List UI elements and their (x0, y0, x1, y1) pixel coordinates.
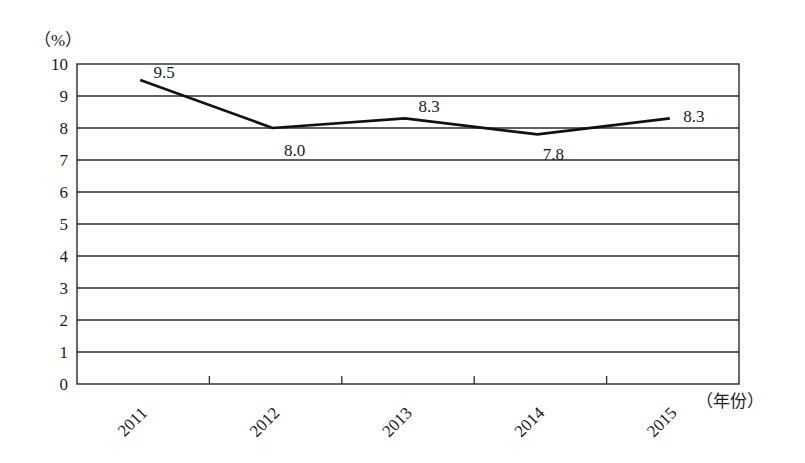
y-tick-label: 4 (60, 247, 69, 266)
y-tick-label: 9 (60, 87, 69, 106)
data-label: 8.0 (284, 141, 305, 160)
gridlines (77, 96, 739, 352)
y-tick-label: 10 (51, 55, 68, 74)
y-tick-label: 3 (60, 279, 69, 298)
y-tick-label: 0 (60, 375, 69, 394)
y-tick-label: 5 (60, 215, 69, 234)
y-axis-ticks: 012345678910 (51, 55, 69, 394)
y-tick-label: 2 (60, 311, 69, 330)
x-tick-label: 2011 (114, 403, 151, 440)
y-axis-unit-label: （%） (34, 31, 82, 50)
x-axis-ticks: 20112012201320142015 (114, 376, 681, 441)
data-label: 8.3 (683, 107, 704, 126)
x-tick-label: 2014 (511, 403, 549, 441)
data-label: 8.3 (418, 97, 439, 116)
x-axis-unit-label: （年份） (696, 392, 764, 411)
x-tick-label: 2012 (246, 403, 283, 440)
data-label: 7.8 (543, 145, 564, 164)
x-tick-label: 2013 (378, 403, 415, 440)
y-tick-label: 8 (60, 119, 69, 138)
data-label: 9.5 (154, 63, 175, 82)
series-line (140, 80, 670, 134)
y-tick-label: 7 (60, 151, 69, 170)
y-tick-label: 6 (60, 183, 69, 202)
x-tick-label: 2015 (643, 403, 680, 440)
y-tick-label: 1 (60, 343, 69, 362)
line-chart: 012345678910 20112012201320142015 9.58.0… (0, 0, 805, 463)
